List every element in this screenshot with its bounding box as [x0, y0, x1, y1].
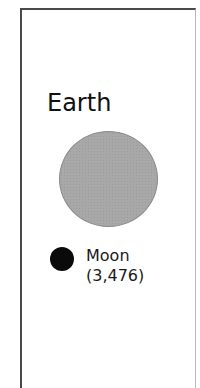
moon-label: Moon: [86, 246, 144, 266]
moon-circle: [50, 247, 74, 271]
moon-diameter-value: (3,476): [86, 266, 144, 286]
earth-circle: [59, 131, 158, 227]
earth-label: Earth: [47, 89, 111, 117]
moon-label-group: Moon (3,476): [86, 246, 144, 286]
